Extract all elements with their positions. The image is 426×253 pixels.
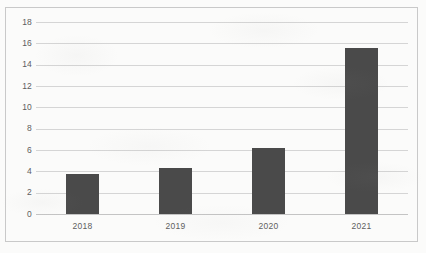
y-axis-tick-label: 14 <box>6 60 32 69</box>
bar-2020 <box>252 148 285 214</box>
gridline <box>36 43 408 44</box>
bar-chart: 181614121086420 2018201920202021 <box>0 0 426 253</box>
axis-baseline <box>36 214 408 215</box>
y-axis-tick-label: 2 <box>6 188 32 197</box>
y-axis-tick-label: 10 <box>6 103 32 112</box>
y-axis: 181614121086420 <box>6 22 32 214</box>
gridline <box>36 22 408 23</box>
y-axis-tick-label: 16 <box>6 39 32 48</box>
y-axis-tick-label: 0 <box>6 210 32 219</box>
bar-2019 <box>159 168 192 214</box>
y-axis-tick-label: 18 <box>6 18 32 27</box>
y-axis-tick-label: 8 <box>6 124 32 133</box>
plot-area <box>36 22 408 214</box>
bar-2018 <box>66 174 99 215</box>
bar-2021 <box>345 48 378 214</box>
y-axis-tick-label: 6 <box>6 146 32 155</box>
y-axis-tick-label: 4 <box>6 167 32 176</box>
y-axis-tick-label: 12 <box>6 82 32 91</box>
